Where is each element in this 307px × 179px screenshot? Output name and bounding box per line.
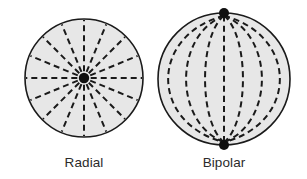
radial-center-node: [79, 73, 89, 83]
patterns-figure: Radial Bipolar: [0, 0, 307, 179]
radial-caption-label: Radial: [65, 155, 104, 170]
bipolar-north-pole-node: [219, 8, 229, 18]
figure-container: Radial Bipolar: [0, 0, 307, 179]
bipolar-south-pole-node: [219, 140, 229, 150]
bipolar-caption-label: Bipolar: [203, 155, 246, 170]
